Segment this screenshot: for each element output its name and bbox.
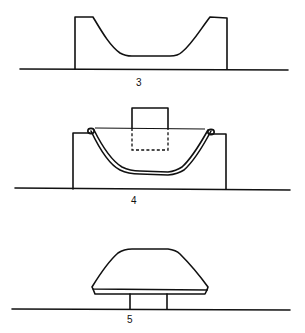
panel-label-5: 5 (127, 314, 133, 325)
process-diagram: 3 4 5 (0, 0, 305, 333)
mold-cavity-profile (75, 17, 227, 69)
panel-5: 5 (12, 249, 290, 325)
formed-sheet-inner (94, 130, 208, 172)
sheet-top-line (95, 128, 205, 129)
panel-4: 4 (15, 108, 290, 206)
panel-3: 3 (20, 17, 288, 88)
panel-label-3: 3 (136, 77, 142, 88)
baseline-3 (20, 69, 288, 70)
baseline-4 (15, 188, 290, 190)
plunger-travel-dashed (132, 128, 168, 150)
formed-part-dome (92, 249, 208, 290)
panel-label-4: 4 (131, 195, 137, 206)
plunger (132, 108, 168, 128)
baseline-5 (12, 309, 290, 310)
